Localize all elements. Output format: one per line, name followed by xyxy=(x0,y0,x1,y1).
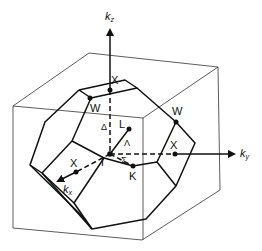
brillouin-zone-diagram: kz ky kx X X X W W L K Γ Δ Λ Σ xyxy=(0,0,262,251)
x-right-point xyxy=(173,152,178,157)
l-label: L xyxy=(119,118,125,130)
kz-label: kz xyxy=(105,10,115,23)
w-left-label: W xyxy=(90,102,101,114)
gamma-label: Γ xyxy=(101,156,107,168)
kx-label: kx xyxy=(63,183,73,196)
l-point xyxy=(127,127,132,132)
x-top-point xyxy=(108,88,113,93)
sigma-label: Σ xyxy=(121,155,127,165)
axes xyxy=(58,30,234,181)
w-left-point xyxy=(88,96,93,101)
x-right-label: X xyxy=(170,139,178,151)
gamma-point xyxy=(107,151,113,157)
x-top-label: X xyxy=(111,74,119,86)
x-front-point xyxy=(74,170,79,175)
w-right-label: W xyxy=(172,105,183,117)
lambda-label: Λ xyxy=(124,138,130,148)
labels: kz ky kx X X X W W L K Γ Δ Λ Σ xyxy=(63,10,250,196)
x-front-label: X xyxy=(70,157,78,169)
ky-label: ky xyxy=(240,147,250,161)
delta-label: Δ xyxy=(101,122,107,132)
kx-axis xyxy=(58,172,76,181)
w-right-point xyxy=(174,120,179,125)
k-label: K xyxy=(129,170,137,182)
k-point xyxy=(131,164,136,169)
